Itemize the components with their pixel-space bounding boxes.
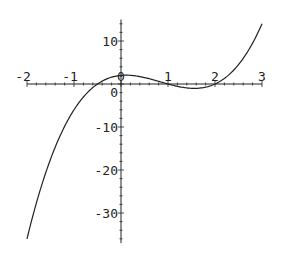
y-tick-label: -30 bbox=[95, 206, 118, 221]
x-tick-label: 1 bbox=[164, 69, 172, 84]
function-curve bbox=[27, 24, 262, 239]
x-tick-label: 0 bbox=[117, 69, 125, 84]
x-tick-label: 3 bbox=[258, 69, 266, 84]
x-tick-label: -1 bbox=[62, 69, 78, 84]
tick-labels: -2-10123-30-20-10010 bbox=[15, 34, 266, 221]
y-tick-label: 0 bbox=[110, 85, 118, 100]
x-tick-label: 2 bbox=[211, 69, 219, 84]
y-tick-label: -10 bbox=[95, 120, 118, 135]
function-plot: -2-10123-30-20-10010 bbox=[0, 0, 281, 257]
y-tick-label: 10 bbox=[102, 34, 118, 49]
x-tick-label: -2 bbox=[15, 69, 31, 84]
y-tick-label: -20 bbox=[95, 163, 118, 178]
